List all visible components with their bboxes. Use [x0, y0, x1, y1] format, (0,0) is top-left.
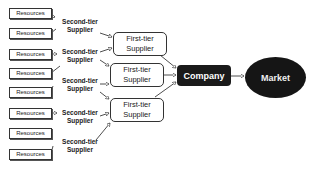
label-line: Second-tier: [58, 77, 102, 85]
label-line: Second-tier: [58, 138, 102, 146]
label-line: Second-tier: [58, 18, 102, 26]
label-line: First-tier: [123, 65, 151, 75]
first-tier-supplier-box: First-tierSupplier: [113, 32, 167, 56]
label-line: First-tier: [126, 34, 154, 44]
label-line: Supplier: [123, 75, 151, 85]
market-ellipse: Market: [245, 57, 306, 98]
second-tier-supplier-label: Second-tier Supplier: [58, 138, 102, 154]
label-line: Supplier: [126, 44, 154, 54]
label-line: Supplier: [58, 117, 102, 125]
label-line: Second-tier: [58, 48, 102, 56]
second-tier-supplier-label: Second-tier Supplier: [58, 77, 102, 93]
resources-box: Resources: [9, 68, 52, 79]
resources-box: Resources: [9, 149, 52, 160]
resources-box: Resources: [9, 28, 52, 39]
company-box: Company: [177, 65, 231, 86]
label-line: First-tier: [123, 100, 151, 110]
label-line: Supplier: [123, 110, 151, 120]
label-line: Supplier: [58, 146, 102, 154]
second-tier-supplier-label: Second-tier Supplier: [58, 109, 102, 125]
label-line: Second-tier: [58, 109, 102, 117]
first-tier-supplier-box: First-tierSupplier: [110, 63, 164, 87]
first-tier-supplier-box: First-tierSupplier: [110, 98, 164, 122]
resources-box: Resources: [9, 128, 52, 139]
label-line: Supplier: [58, 26, 102, 34]
resources-box: Resources: [9, 49, 52, 60]
resources-box: Resources: [9, 8, 52, 19]
label-line: Supplier: [58, 56, 102, 64]
second-tier-supplier-label: Second-tier Supplier: [58, 48, 102, 64]
resources-box: Resources: [9, 87, 52, 98]
second-tier-supplier-label: Second-tier Supplier: [58, 18, 102, 34]
resources-box: Resources: [9, 108, 52, 119]
label-line: Supplier: [58, 85, 102, 93]
